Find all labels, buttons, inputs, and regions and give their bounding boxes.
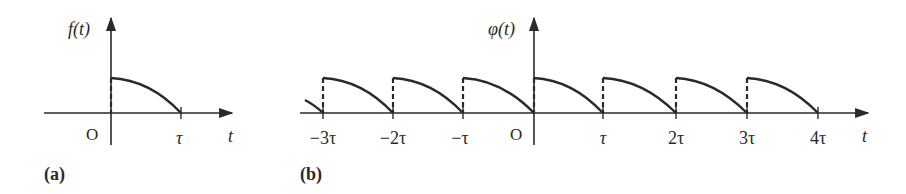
tick-label-neg3tau: −3τ (310, 128, 336, 148)
tick-label-3tau: 3τ (739, 128, 755, 148)
origin-label-a: O (86, 125, 98, 144)
pulse-period-0 (534, 78, 603, 113)
x-axis-label-a: t (228, 126, 234, 146)
pulse-period-neg1 (463, 78, 534, 113)
panel-a: f(t) O t τ (a) (44, 18, 234, 185)
pulse-curve-a (111, 78, 181, 113)
panel-label-b: (b) (300, 164, 322, 185)
x-axis-label-b: t (862, 126, 868, 146)
tick-label-neg2tau: −2τ (380, 128, 406, 148)
tick-label-tau-a: τ (176, 128, 183, 148)
pulse-period-3 (747, 78, 818, 113)
tick-label-4tau: 4τ (810, 128, 826, 148)
pulse-period-2 (676, 78, 747, 113)
pulse-tail-left (305, 100, 323, 113)
pulse-period-neg2 (393, 78, 463, 113)
y-axis-label-b: φ(t) (488, 19, 515, 40)
diagram-canvas: f(t) O t τ (a) (0, 0, 906, 194)
origin-label-b: O (510, 125, 522, 144)
tick-label-2tau: 2τ (668, 128, 684, 148)
y-axis-label-a: f(t) (68, 19, 90, 40)
tick-label-tau: τ (600, 128, 607, 148)
tick-label-negtau: −τ (451, 128, 468, 148)
pulse-period-1 (603, 78, 676, 113)
panel-label-a: (a) (44, 164, 65, 185)
panel-b: φ(t) O t −3τ −2τ −τ τ 2τ 3τ 4τ (b) (300, 18, 868, 185)
pulse-period-neg3 (323, 78, 393, 113)
